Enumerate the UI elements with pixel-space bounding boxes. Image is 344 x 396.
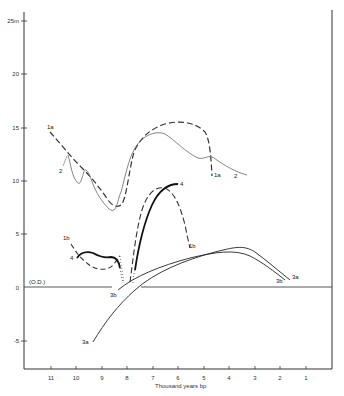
label-1a-end: 1a [214, 172, 221, 178]
y-tick-0: 0 [16, 285, 20, 291]
label-4-end: 4 [180, 181, 184, 187]
od-label: (O.D.) [29, 279, 45, 285]
x-tick-3: 3 [253, 375, 257, 381]
label-3a-start: 3a [82, 339, 89, 345]
x-tick-5: 5 [202, 375, 206, 381]
x-tick-6: 6 [176, 375, 180, 381]
y-tick-minus5: -5 [14, 338, 20, 344]
x-tick-11: 11 [48, 375, 55, 381]
y-tick-5: 5 [16, 231, 20, 237]
y-tick-15: 15 [12, 125, 19, 131]
x-tick-2: 2 [278, 375, 282, 381]
label-3b-end: 3b [276, 278, 283, 284]
x-tick-8: 8 [125, 375, 129, 381]
label-4-start: 4 [70, 255, 74, 261]
label-1b-start: 1b [63, 235, 70, 241]
x-tick-9: 9 [100, 375, 104, 381]
label-3b-start: 3b [110, 292, 117, 298]
x-axis-title: Thousand years bp [155, 383, 207, 389]
x-tick-labels: 11 10 9 8 7 6 5 4 3 2 1 [48, 375, 308, 381]
curve-2-tail [63, 156, 67, 166]
curve-3b [118, 252, 285, 290]
axes-frame [24, 10, 332, 369]
sea-level-chart: 25m 20 15 10 5 0 -5 11 10 9 8 7 6 5 4 3 … [0, 0, 344, 396]
y-tick-20: 20 [12, 71, 19, 77]
y-tick-labels: 25m 20 15 10 5 0 -5 [7, 18, 19, 344]
label-2-start: 2 [59, 168, 63, 174]
x-tick-10: 10 [73, 375, 80, 381]
x-tick-7: 7 [151, 375, 155, 381]
y-tick-25: 25m [7, 18, 19, 24]
label-1a-start: 1a [47, 124, 54, 130]
curve-1b-dotted [120, 256, 124, 283]
label-1b-end: 1b [189, 243, 196, 249]
curve-1a [50, 122, 212, 206]
y-tick-10: 10 [12, 178, 19, 184]
label-2-end: 2 [234, 173, 238, 179]
label-3a-end: 3a [292, 274, 299, 280]
x-tick-4: 4 [227, 375, 231, 381]
x-tick-1: 1 [304, 375, 308, 381]
curve-4-dotted [120, 268, 135, 283]
curve-4-right [135, 184, 178, 270]
